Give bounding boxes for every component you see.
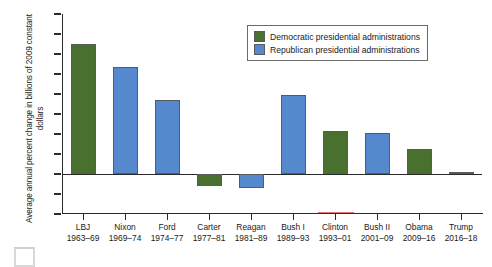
x-tick-mark [251, 214, 252, 220]
y-tick-mark [54, 133, 61, 134]
y-tick-mark [54, 33, 61, 34]
bar [449, 172, 474, 174]
legend-swatch-icon [254, 31, 265, 42]
y-tick-mark [54, 73, 61, 74]
y-tick-mark [54, 113, 61, 114]
bar [407, 149, 432, 174]
bar [365, 133, 390, 174]
y-tick-mark [54, 173, 61, 174]
legend-label: Democratic presidential administrations [270, 32, 420, 42]
y-tick-mark [54, 193, 61, 194]
scan-artifact-red-line [318, 212, 354, 213]
y-tick-mark [54, 213, 61, 214]
x-tick-mark [167, 214, 168, 220]
x-tick-mark [293, 214, 294, 220]
scan-artifact-corner-mark [14, 247, 35, 267]
x-tick-mark [125, 214, 126, 220]
y-tick-mark [54, 153, 61, 154]
x-label-president: Trump [449, 222, 473, 232]
legend-swatch-icon [254, 44, 265, 55]
x-tick-mark [209, 214, 210, 220]
legend-label: Republican presidential administrations [270, 45, 420, 55]
y-axis-title: Average annual percent change in billion… [25, 14, 46, 224]
bar [71, 44, 96, 174]
x-label-term: 2016–18 [426, 233, 492, 244]
x-tick-label: Trump2016–18 [426, 222, 492, 244]
y-tick-mark [54, 53, 61, 54]
bar [323, 131, 348, 174]
x-tick-mark [335, 214, 336, 220]
y-tick-mark [54, 93, 61, 94]
legend-item: Democratic presidential administrations [254, 30, 420, 43]
x-tick-mark [83, 214, 84, 220]
bar [239, 174, 264, 188]
bar [281, 95, 306, 174]
x-label-president: LBJ [76, 222, 90, 232]
bar [113, 67, 138, 174]
zero-baseline [62, 174, 482, 175]
bar [155, 100, 180, 174]
y-tick-mark [54, 13, 61, 14]
legend: Democratic presidential administrationsR… [247, 25, 428, 61]
x-tick-mark [377, 214, 378, 220]
x-tick-mark [419, 214, 420, 220]
x-tick-mark [461, 214, 462, 220]
bar [197, 174, 222, 186]
legend-item: Republican presidential administrations [254, 43, 420, 56]
